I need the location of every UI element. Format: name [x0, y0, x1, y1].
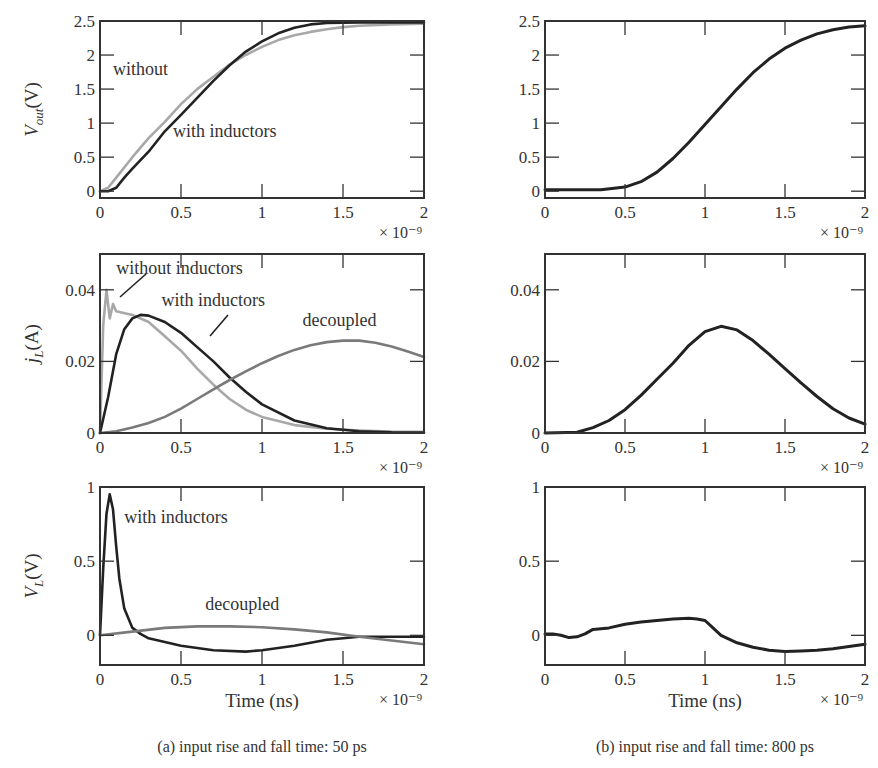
- x-tick-label: 0: [96, 438, 105, 457]
- panel-a-vout-chart: 00.511.5200.511.522.5× 10⁻⁹Vout(V)withou…: [21, 12, 428, 241]
- series-line-with-inductors: [545, 26, 865, 190]
- x-tick-label: 0: [96, 203, 105, 222]
- y-axis-title: VL(V): [21, 553, 46, 598]
- y-tick-label: 0.5: [74, 552, 95, 571]
- curve-annotation: with inductors: [173, 121, 277, 141]
- x-exponent-label: × 10⁻⁹: [820, 224, 863, 241]
- x-tick-label: 0.5: [614, 203, 635, 222]
- x-exponent-label: × 10⁻⁹: [820, 459, 863, 476]
- x-tick-label: 1.5: [332, 203, 353, 222]
- caption-a: (a) input rise and fall time: 50 ps: [157, 738, 366, 756]
- x-tick-label: 1.5: [774, 203, 795, 222]
- y-tick-label: 0: [532, 626, 541, 645]
- x-axis-title: Time (ns): [225, 690, 299, 712]
- figure-canvas: 00.511.5200.511.522.5× 10⁻⁹Vout(V)withou…: [0, 0, 878, 768]
- plot-frame: [545, 254, 865, 433]
- y-tick-label: 0.02: [510, 352, 540, 371]
- x-exponent-label: × 10⁻⁹: [820, 691, 863, 708]
- y-tick-label: 0.04: [510, 281, 540, 300]
- x-tick-label: 0: [96, 670, 105, 689]
- x-exponent-label: × 10⁻⁹: [379, 691, 422, 708]
- x-exponent-label: × 10⁻⁹: [379, 224, 422, 241]
- panel-b-jl-chart: 00.511.5200.020.04× 10⁻⁹: [510, 254, 869, 476]
- panel-a-vl-chart: 00.511.5200.51× 10⁻⁹Time (ns)VL(V)with i…: [21, 478, 428, 712]
- y-axis-title: jL(A): [21, 324, 46, 366]
- y-tick-label: 2: [87, 46, 96, 65]
- curve-annotation: decoupled: [205, 594, 279, 614]
- x-tick-label: 2: [420, 203, 429, 222]
- x-tick-label: 0.5: [170, 438, 191, 457]
- y-tick-label: 1.5: [74, 80, 95, 99]
- series-line-decoupled: [100, 626, 424, 644]
- annotation-leader-with: [210, 315, 228, 336]
- y-tick-label: 2.5: [519, 12, 540, 31]
- y-tick-label: 0.5: [519, 552, 540, 571]
- x-tick-label: 2: [861, 670, 870, 689]
- x-tick-label: 1.5: [332, 438, 353, 457]
- x-tick-label: 1: [258, 438, 267, 457]
- y-tick-label: 0: [532, 424, 541, 443]
- x-tick-label: 1.5: [774, 670, 795, 689]
- y-tick-label: 0.04: [65, 281, 95, 300]
- curve-annotation: with inductors: [162, 290, 266, 310]
- y-tick-label: 0: [87, 424, 96, 443]
- x-tick-label: 0: [541, 438, 550, 457]
- y-tick-label: 2: [532, 46, 541, 65]
- x-axis-title: Time (ns): [668, 690, 742, 712]
- plot-frame: [545, 487, 865, 665]
- x-tick-label: 2: [861, 438, 870, 457]
- x-tick-label: 0: [541, 203, 550, 222]
- y-tick-label: 2.5: [74, 12, 95, 31]
- x-tick-label: 0.5: [614, 670, 635, 689]
- caption-b: (b) input rise and fall time: 800 ps: [596, 738, 814, 756]
- x-tick-label: 1.5: [774, 438, 795, 457]
- x-tick-label: 1: [701, 670, 710, 689]
- y-tick-label: 1: [87, 478, 96, 497]
- curve-annotation: decoupled: [303, 310, 377, 330]
- x-tick-label: 0.5: [170, 670, 191, 689]
- y-tick-label: 0: [87, 182, 96, 201]
- x-tick-label: 1: [258, 203, 267, 222]
- y-tick-label: 0: [532, 182, 541, 201]
- y-tick-label: 1.5: [519, 80, 540, 99]
- curve-annotation: without: [113, 59, 168, 79]
- y-tick-label: 1: [532, 114, 541, 133]
- panel-a-jl-chart: 00.511.5200.020.04× 10⁻⁹jL(A)without ind…: [21, 254, 428, 476]
- y-tick-label: 0.02: [65, 352, 95, 371]
- x-tick-label: 0.5: [614, 438, 635, 457]
- x-exponent-label: × 10⁻⁹: [379, 459, 422, 476]
- y-tick-label: 0.5: [74, 148, 95, 167]
- series-line-with-inductors: [100, 315, 424, 433]
- y-tick-label: 1: [532, 478, 541, 497]
- y-tick-label: 1: [87, 114, 96, 133]
- x-tick-label: 0.5: [170, 203, 191, 222]
- x-tick-label: 1.5: [332, 670, 353, 689]
- panel-b-vl-chart: 00.511.5200.51× 10⁻⁹Time (ns): [519, 478, 870, 712]
- x-tick-label: 2: [861, 203, 870, 222]
- y-tick-label: 0.5: [519, 148, 540, 167]
- x-tick-label: 1: [701, 203, 710, 222]
- curve-annotation: without inductors: [116, 258, 243, 278]
- x-tick-label: 2: [420, 670, 429, 689]
- x-tick-label: 0: [541, 670, 550, 689]
- x-tick-label: 1: [701, 438, 710, 457]
- x-tick-label: 1: [258, 670, 267, 689]
- panel-b-vout-chart: 00.511.5200.511.522.5× 10⁻⁹: [519, 12, 870, 241]
- series-line-with-inductors: [545, 326, 865, 433]
- series-line-without: [100, 24, 424, 192]
- y-axis-title: Vout(V): [21, 82, 46, 137]
- y-tick-label: 0: [87, 626, 96, 645]
- x-tick-label: 2: [420, 438, 429, 457]
- curve-annotation: with inductors: [124, 507, 228, 527]
- plot-frame: [545, 21, 865, 198]
- series-line-with-inductors: [545, 618, 865, 651]
